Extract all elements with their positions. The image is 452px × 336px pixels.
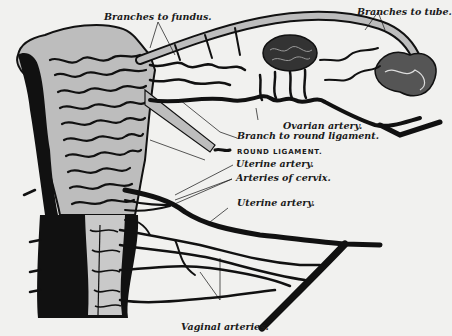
label-vaginal-arteries: Vaginal arteries. (181, 322, 269, 332)
label-branch-to-round-ligament: Branch to round ligament. (237, 131, 379, 141)
label-uterine-artery-lower: Uterine artery. (237, 198, 315, 208)
label-arteries-of-cervix: Arteries of cervix. (236, 173, 331, 183)
label-branches-to-tube: Branches to tube. (357, 7, 452, 17)
fimbriae (375, 52, 436, 95)
uterine-artery-network (120, 190, 380, 328)
uterus (17, 25, 155, 215)
label-round-ligament: ROUND LIGAMENT. (237, 149, 322, 156)
ovary (263, 35, 317, 71)
label-uterine-artery-upper: Uterine artery. (236, 159, 314, 169)
label-branches-to-fundus: Branches to fundus. (104, 12, 212, 22)
